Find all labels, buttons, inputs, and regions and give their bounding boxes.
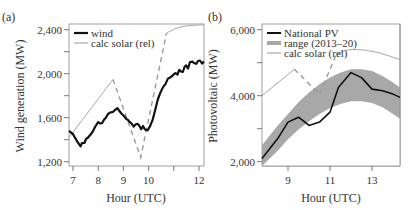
panel-a-y-axis-title: Wind generation (MW) [13,40,27,153]
panel-a-ytick-1600: 1,600 [37,112,62,124]
panel-b-ytick-2000: 2,000 [230,156,255,168]
figure: (a) 2,400 2,000 1,600 1,200 [0,0,413,210]
panel-a-label: (a) [2,10,15,24]
legend-label-calc-solar-b: calc solar (rel) [284,47,348,60]
panel-b-ytick-4000: 4,000 [230,90,255,102]
panel-b-xtick-11: 11 [325,174,336,186]
panel-a-ytick-2000: 2,000 [37,68,62,80]
panel-a-y-axis [64,30,69,162]
panel-a-xtick-10: 10 [143,174,155,186]
legend-label-calc-solar: calc solar (rel) [91,37,155,50]
panel-a: (a) 2,400 2,000 1,600 1,200 [2,10,205,205]
panel-b-legend: National PV range (2013–20) calc solar (… [267,27,357,60]
panel-b-x-axis-title: Hour (UTC) [301,191,361,205]
panel-a-ytick-2400: 2,400 [37,24,62,36]
panel-b: (b) 6,000 4,000 2,000 [206,10,400,205]
panel-b-xtick-9: 9 [285,174,291,186]
panel-b-y-axis [257,30,262,162]
panel-b-ytick-6000: 6,000 [230,24,255,36]
panel-a-xtick-7: 7 [70,174,76,186]
panel-b-y-axis-title: Photovoltaic (MW) [206,49,220,143]
panel-a-xtick-9: 9 [121,174,127,186]
panel-a-xtick-12: 12 [194,174,205,186]
panel-b-label: (b) [208,10,222,24]
panel-a-ytick-1200: 1,200 [37,156,62,168]
panel-a-legend: wind calc solar (rel) [74,27,155,50]
panel-a-wind-line [69,61,204,147]
panel-b-xtick-13: 13 [367,174,379,186]
panel-a-x-axis [73,166,199,171]
panel-a-x-axis-title: Hour (UTC) [106,191,166,205]
panel-a-xtick-8: 8 [95,174,101,186]
panel-b-x-axis [288,166,372,171]
